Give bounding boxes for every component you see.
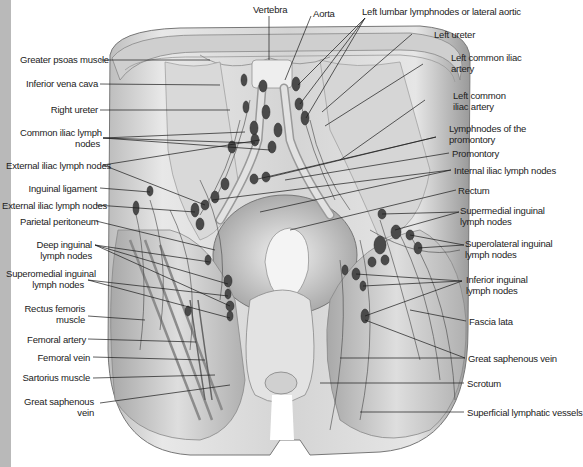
label-great-saphenous-vein-right: Great saphenous vein [468,353,557,364]
label-deep-inguinal-lymph-nodes: Deep inguinal lymph nodes [20,239,92,261]
label-femoral-artery: Femoral artery [20,334,86,345]
label-fascia-lata: Fascia lata [469,316,513,327]
label-great-saphenous-vein-left: Great saphenous vein [20,396,94,418]
label-left-common-iliac-artery-1: Left common iliac artery [451,52,522,74]
label-external-iliac-lymph-nodes-2: External iliac lymph nodes [2,200,93,211]
label-scrotum: Scrotum [467,378,501,389]
label-supermedial-inguinal-lymph-nodes: Supermedial inguinal lymph nodes [460,205,545,227]
label-inferior-vena-cava: Inferior vena cava [20,78,98,89]
label-inferior-inguinal-lymph-nodes: Inferior inguinal lymph nodes [466,274,528,296]
vertebra-shape [252,60,292,88]
label-superolateral-inguinal-lymph-nodes: Superolateral inguinal lymph nodes [465,238,553,260]
label-right-ureter: Right ureter [20,104,98,115]
label-vertebra: Vertebra [253,4,287,15]
label-inguinal-ligament: Inguinal ligament [20,183,97,194]
label-internal-iliac-lymph-nodes: Internal iliac lymph nodes [454,165,556,176]
label-superomedial-inguinal-lymph-nodes: Superomedial inguinal lymph nodes [6,268,84,290]
label-lymphnodes-of-the-promontory: Lymphnodes of the promontory [449,123,526,145]
label-left-lumbar-lymphnodes: Left lumbar lymphnodes or lateral aortic [362,6,521,17]
label-left-ureter: Left ureter [434,29,475,40]
label-external-iliac-lymph-nodes-1: External iliac lymph nodes [6,160,100,171]
label-left-common-iliac-artery-2: Left common iliac artery [453,90,506,112]
label-aorta: Aorta [313,8,335,19]
label-common-iliac-lymph-nodes: Common iliac lymph nodes [20,127,100,149]
label-greater-psoas-muscle: Greater psoas muscle [20,54,98,65]
label-promontory: Promontory [452,148,499,159]
label-sartorius-muscle: Sartorius muscle [20,372,90,383]
label-femoral-vein: Femoral vein [20,352,90,363]
label-parietal-peritoneum: Parietal peritoneum [20,216,93,227]
label-superficial-lymphatic-vessels: Superficial lymphatic vessels [467,407,583,418]
label-rectum: Rectum [458,185,490,196]
label-rectus-femoris-muscle: Rectus femoris muscle [20,303,85,325]
